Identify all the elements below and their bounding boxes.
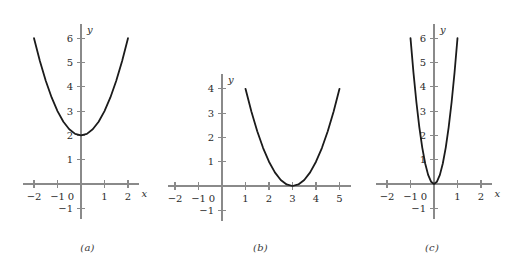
y-tick-label: −1 (58, 203, 73, 214)
x-tick-label: −1 (50, 191, 65, 202)
y-tick-label: 4 (67, 81, 73, 92)
y-axis-label: y (86, 24, 93, 35)
x-axis-label: x (495, 188, 501, 199)
figure-parabola-panels: −2−112−11234560xy (a) −2−112345−112340xy… (0, 0, 519, 273)
plot-b-svg: −2−112345−112340xy (168, 0, 353, 240)
x-tick-label: 3 (289, 193, 295, 204)
x-tick-label: −1 (191, 193, 206, 204)
panel-c-caption: (c) (345, 242, 519, 253)
x-tick-label: −2 (27, 191, 42, 202)
y-tick-label: 3 (67, 106, 73, 117)
panel-a-caption: (a) (0, 242, 175, 253)
x-tick-label: 1 (101, 191, 107, 202)
x-tick-label: 2 (266, 193, 272, 204)
chart-panel-b: −2−112345−112340xy (b) (168, 0, 353, 273)
x-tick-label: −2 (168, 193, 182, 204)
origin-label: 0 (421, 191, 427, 202)
y-axis-label: y (439, 24, 446, 35)
x-tick-label: 4 (313, 193, 319, 204)
x-tick-label: 2 (478, 191, 484, 202)
origin-label: 0 (209, 193, 215, 204)
parabola-curve-b (246, 89, 340, 186)
plot-c-svg: −2−112−11234560xy (345, 0, 519, 240)
x-axis-label: x (142, 188, 148, 199)
y-axis-label: y (227, 74, 234, 85)
x-tick-label: −2 (380, 191, 395, 202)
y-tick-label: 2 (208, 132, 214, 143)
panel-b-caption: (b) (168, 242, 353, 253)
y-tick-label: −1 (411, 203, 426, 214)
y-tick-label: 1 (208, 156, 214, 167)
y-tick-label: −1 (199, 205, 214, 216)
chart-panel-a: −2−112−11234560xy (a) (0, 0, 175, 273)
x-tick-label: 1 (242, 193, 248, 204)
chart-panel-c: −2−112−11234560xy (c) (345, 0, 519, 273)
x-tick-label: −1 (403, 191, 418, 202)
y-tick-label: 3 (208, 108, 214, 119)
x-tick-label: 1 (454, 191, 460, 202)
y-tick-label: 5 (67, 57, 73, 68)
y-tick-label: 6 (67, 33, 73, 44)
y-tick-label: 5 (420, 57, 426, 68)
x-tick-label: 5 (336, 193, 342, 204)
origin-label: 0 (68, 191, 74, 202)
y-tick-label: 4 (208, 83, 214, 94)
y-tick-label: 1 (67, 154, 73, 165)
x-tick-label: 2 (125, 191, 131, 202)
y-tick-label: 3 (420, 106, 426, 117)
y-tick-label: 6 (420, 33, 426, 44)
plot-a-svg: −2−112−11234560xy (0, 0, 175, 240)
y-tick-label: 4 (420, 81, 426, 92)
